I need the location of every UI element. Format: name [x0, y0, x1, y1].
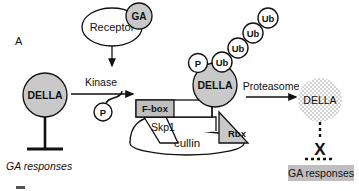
ga-label: GA	[132, 11, 147, 22]
skp1-label: Skp1	[151, 121, 175, 133]
ub-label-1: Ub	[216, 57, 229, 68]
rbx-label: Rbx	[228, 128, 247, 139]
ub-label-2: Ub	[232, 43, 245, 54]
figure-panel-a: A Receptor GA DELLA GA responses Kinase …	[0, 0, 359, 191]
kinase-label: Kinase	[85, 76, 117, 88]
degradation-x-mark: X	[314, 140, 326, 159]
della-degraded-label: DELLA	[303, 94, 336, 106]
proteasome-label: Proteasome	[243, 80, 300, 92]
della-left-label: DELLA	[28, 89, 63, 101]
panel-label-b-partial	[16, 186, 25, 189]
ga-responses-active-label: GA responses	[288, 167, 354, 179]
pathway-diagram: A Receptor GA DELLA GA responses Kinase …	[0, 0, 359, 191]
phospho-bound-label: P	[195, 58, 202, 69]
ub-label-3: Ub	[247, 28, 260, 39]
panel-label-a: A	[15, 35, 23, 47]
ga-responses-inhibited-label: GA responses	[6, 160, 73, 172]
fbox-label: F-box	[142, 103, 169, 114]
della-bound-label: DELLA	[198, 79, 233, 91]
phospho-free-label: P	[100, 107, 107, 118]
phospho-transfer-curve	[106, 91, 122, 104]
ub-label-4: Ub	[262, 13, 275, 24]
